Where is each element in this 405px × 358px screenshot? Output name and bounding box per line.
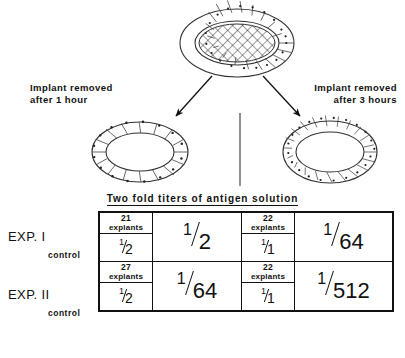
control-titer-r1-left: 12	[100, 234, 152, 261]
table-row: 27 explants 12 164 22 explants	[99, 262, 393, 312]
explants-control-cell-r2-left: 27 explants 12	[99, 262, 153, 312]
experiment-label-2: EXP. II	[8, 287, 50, 302]
titer-denominator: 2	[199, 228, 211, 253]
control-label-row-2: control	[48, 308, 80, 318]
table-row: 21 explants 12 12 22 explants	[99, 212, 393, 262]
titer-cell-r1-right: 164	[295, 212, 394, 262]
titer-numerator: 1	[317, 270, 326, 287]
caption-right-line1: Implant removed	[314, 82, 397, 94]
titer-denominator: 64	[339, 228, 363, 253]
explants-word: explants	[251, 223, 285, 233]
explant-count-r2-left: 27 explants	[100, 262, 152, 283]
caption-left-line2: after 1 hour	[30, 94, 113, 106]
caption-left-branch: Implant removed after 1 hour	[30, 82, 113, 106]
explant-count-r1-left: 21 explants	[100, 213, 152, 234]
caption-left-line1: Implant removed	[30, 82, 113, 94]
control-fraction: 11	[261, 238, 275, 256]
control-fraction: 12	[119, 238, 133, 256]
caption-right-line2: after 3 hours	[314, 94, 397, 106]
titer-fraction: 164	[323, 222, 363, 253]
results-table: 21 explants 12 12 22 explants	[98, 211, 394, 312]
explant-ring-3-hours	[283, 115, 377, 183]
control-titer-r1-right: 11	[242, 234, 294, 261]
figure-root: Implant removed after 1 hour Implant rem…	[0, 0, 405, 358]
control-denominator: 1	[267, 242, 275, 258]
control-denominator: 1	[267, 291, 275, 307]
explant-count-value: 22	[263, 263, 273, 273]
explant-count-value: 22	[263, 214, 273, 224]
explant-count-r1-right: 22 explants	[242, 213, 294, 234]
titer-cell-r1-left: 12	[153, 212, 242, 262]
titer-cell-r2-right: 1512	[295, 262, 394, 312]
titer-fraction: 12	[183, 222, 211, 253]
explants-control-cell-r1-left: 21 explants 12	[99, 212, 153, 262]
explant-count-r2-right: 22 explants	[242, 262, 294, 283]
control-label-row-1: control	[48, 250, 80, 260]
control-denominator: 2	[125, 291, 133, 307]
titer-denominator: 512	[333, 277, 370, 302]
caption-right-branch: Implant removed after 3 hours	[314, 82, 397, 106]
explants-word: explants	[251, 272, 285, 282]
control-denominator: 2	[125, 242, 133, 258]
control-titer-r2-left: 12	[100, 283, 152, 310]
arrow-to-right-branch	[263, 76, 300, 116]
control-fraction: 12	[119, 287, 133, 305]
explants-word: explants	[109, 223, 143, 233]
table-title-text: Two fold titers of antigen solution	[107, 193, 298, 206]
titer-numerator: 1	[323, 221, 332, 238]
titer-denominator: 64	[193, 277, 217, 302]
table-title: Two fold titers of antigen solution	[0, 193, 405, 204]
explant-count-value: 21	[121, 214, 131, 224]
explants-control-cell-r2-right: 22 explants 11	[242, 262, 295, 312]
explants-control-cell-r1-right: 22 explants 11	[242, 212, 295, 262]
explant-ring-1-hour	[92, 121, 188, 183]
titer-fraction: 164	[177, 271, 217, 302]
titer-numerator: 1	[177, 270, 186, 287]
control-fraction: 11	[261, 287, 275, 305]
experiment-label-1: EXP. I	[8, 229, 46, 244]
titer-fraction: 1512	[317, 271, 370, 302]
titer-cell-r2-left: 164	[153, 262, 242, 312]
explants-word: explants	[109, 272, 143, 282]
explant-count-value: 27	[121, 263, 131, 273]
titer-numerator: 1	[183, 221, 192, 238]
control-titer-r2-right: 11	[242, 283, 294, 310]
arrow-to-left-branch	[176, 76, 212, 116]
explant-with-implant	[180, 0, 294, 77]
